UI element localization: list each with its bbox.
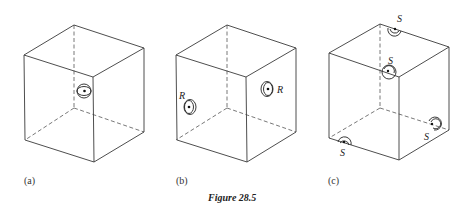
cube-a [24,25,144,162]
figure-caption: Figure 28.5 [208,192,256,203]
axis-symbol-c-right-bottom: S [424,117,441,142]
axis-symbol-b-left: R [178,90,196,115]
axis-symbol-b-right: R [261,82,283,97]
axis-symbol-a [77,84,91,98]
label-r-left: R [178,90,185,101]
panel-label-a: (a) [24,175,35,186]
axis-symbol-c-top-back: S [388,13,402,36]
label-s-3: S [424,131,429,142]
figure-canvas: R R S S [0,0,469,224]
label-r-right: R [276,84,283,95]
label-s-1: S [397,13,402,24]
cube-b: R R [176,25,296,162]
label-s-4: S [340,147,345,158]
label-s-2: S [388,55,393,66]
axis-symbol-c-left-bottom: S [338,137,351,158]
panel-label-c: (c) [328,175,339,186]
panel-label-b: (b) [176,175,188,186]
cube-c: S S S S [329,13,449,160]
